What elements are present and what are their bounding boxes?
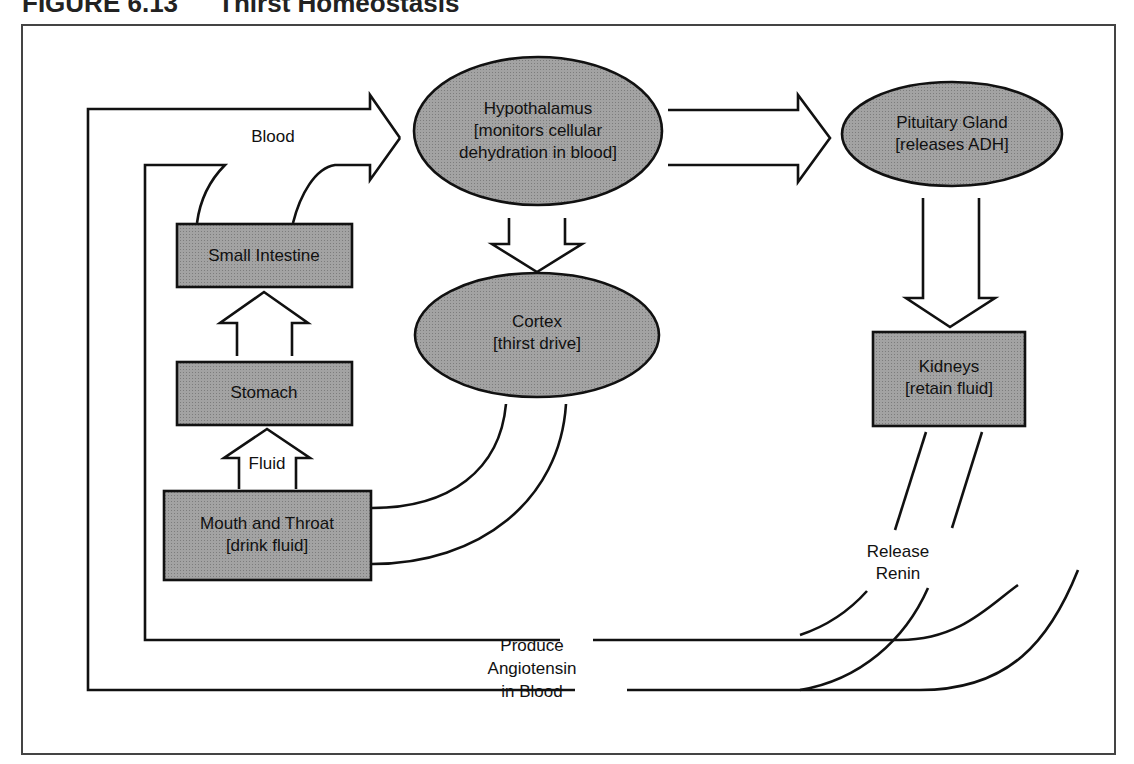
angiotensin-label: Produce Angiotensin in Blood xyxy=(488,634,577,703)
kidneys-label: Kidneys [retain fluid] xyxy=(905,356,993,400)
pituitary-desc: [releases ADH] xyxy=(895,134,1008,156)
arrow-hypothalamus-cortex xyxy=(492,218,582,272)
cortex-title: Cortex xyxy=(493,311,581,333)
blood-edge-label: Blood xyxy=(251,126,294,148)
pituitary-title: Pituitary Gland xyxy=(895,112,1008,134)
angiotensin-line-1: Produce xyxy=(488,634,577,657)
arrow-stomach-intestine xyxy=(220,292,308,356)
hypothalamus-title: Hypothalamus xyxy=(459,98,617,120)
angiotensin-line-2: Angiotensin xyxy=(488,657,577,680)
release-renin-line-2: Renin xyxy=(867,563,929,585)
release-renin-label: Release Renin xyxy=(867,541,929,585)
cortex-desc: [thirst drive] xyxy=(493,333,581,355)
mouth-throat-title: Mouth and Throat xyxy=(200,513,334,535)
stomach-title: Stomach xyxy=(230,382,297,404)
curve-cortex-mouth-inner xyxy=(372,404,506,508)
curve-cortex-mouth-outer xyxy=(372,404,566,564)
kidneys-desc: [retain fluid] xyxy=(905,378,993,400)
arrow-hypothalamus-pituitary xyxy=(668,95,830,182)
mouth-throat-label: Mouth and Throat [drink fluid] xyxy=(200,513,334,557)
small-intestine-label: Small Intestine xyxy=(208,245,320,267)
pituitary-label: Pituitary Gland [releases ADH] xyxy=(895,112,1008,156)
line-kidneys-renin-right xyxy=(952,432,982,528)
release-renin-line-1: Release xyxy=(867,541,929,563)
hypothalamus-desc-1: [monitors cellular xyxy=(459,120,617,142)
hypothalamus-desc-2: dehydration in blood] xyxy=(459,142,617,164)
cortex-label: Cortex [thirst drive] xyxy=(493,311,581,355)
small-intestine-title: Small Intestine xyxy=(208,245,320,267)
angiotensin-line-3: in Blood xyxy=(488,680,577,703)
line-kidneys-renin-left xyxy=(895,432,926,530)
arrow-pituitary-kidneys xyxy=(906,198,995,327)
fluid-edge-label: Fluid xyxy=(249,453,286,475)
stomach-label: Stomach xyxy=(230,382,297,404)
mouth-throat-desc: [drink fluid] xyxy=(200,535,334,557)
hypothalamus-label: Hypothalamus [monitors cellular dehydrat… xyxy=(459,98,617,164)
kidneys-title: Kidneys xyxy=(905,356,993,378)
